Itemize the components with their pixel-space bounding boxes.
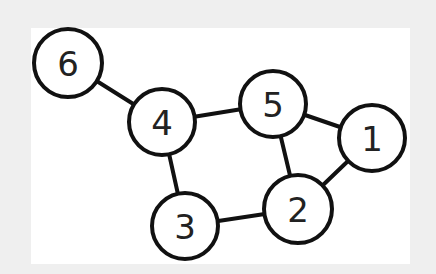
node-1: 1: [339, 105, 405, 171]
node-3-label: 3: [174, 207, 196, 247]
nodes-layer: 1 2 3 4 5 6: [34, 29, 405, 259]
node-5-label: 5: [262, 85, 284, 125]
node-2-label: 2: [287, 190, 309, 230]
node-6: 6: [34, 29, 102, 97]
graph-diagram: 1 2 3 4 5 6: [0, 0, 436, 274]
node-5: 5: [240, 71, 306, 137]
node-3: 3: [152, 193, 218, 259]
node-4: 4: [129, 89, 195, 155]
node-6-label: 6: [57, 44, 79, 84]
node-1-label: 1: [361, 119, 383, 159]
node-2: 2: [264, 175, 332, 243]
node-4-label: 4: [151, 103, 173, 143]
